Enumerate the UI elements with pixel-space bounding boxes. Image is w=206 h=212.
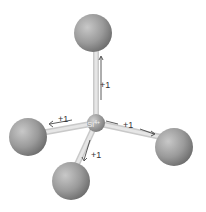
tetrahedron-diagram: Si4+ +1 +1 +1 +1 bbox=[0, 0, 206, 212]
oxygen-atom-top bbox=[74, 14, 112, 52]
bonds bbox=[30, 40, 175, 175]
bond-label-left: +1 bbox=[58, 114, 68, 124]
oxygen-atom-front bbox=[52, 162, 90, 200]
oxygen-atom-left bbox=[9, 118, 47, 156]
oxygen-atom-right bbox=[155, 128, 193, 166]
arrows bbox=[49, 56, 155, 161]
bond-label-front: +1 bbox=[91, 150, 101, 160]
bond-label-right: +1 bbox=[123, 120, 133, 130]
bond-label-top: +1 bbox=[100, 80, 110, 90]
